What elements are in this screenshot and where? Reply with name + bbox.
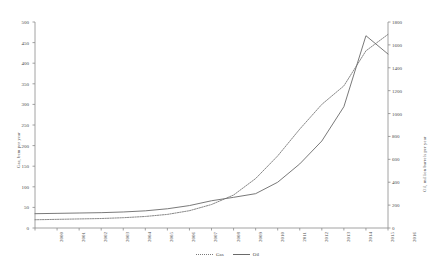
right-axis-tick-label: 1200 <box>392 88 418 93</box>
right-axis-tick-label: 200 <box>392 203 418 208</box>
chart-container: Gas, bcm per year Oil, million barrels p… <box>0 0 430 271</box>
x-axis-tick-label: 2011 <box>302 232 307 254</box>
x-axis-tick-label: 2013 <box>346 232 351 254</box>
x-axis-tick-label: 2006 <box>191 232 196 254</box>
series-line-gas <box>35 34 388 219</box>
right-axis-tick-label: 1600 <box>392 42 418 47</box>
x-axis-tick-label: 2007 <box>213 232 218 254</box>
right-axis-tick-label: 1000 <box>392 111 418 116</box>
left-axis-title: Gas, bcm per year <box>16 132 21 168</box>
left-axis-tick-label: 50 <box>5 205 29 210</box>
left-axis-tick-label: 100 <box>5 184 29 189</box>
left-axis-tick-label: 250 <box>5 123 29 128</box>
x-axis-tick-label: 2002 <box>103 232 108 254</box>
left-axis-tick-label: 450 <box>5 40 29 45</box>
legend-swatch-oil <box>233 254 250 255</box>
right-axis-title: Oil, million barrels per year <box>422 136 427 192</box>
left-axis-tick-label: 300 <box>5 102 29 107</box>
x-axis-tick-label: 2014 <box>368 232 373 254</box>
x-axis-tick-label: 2000 <box>59 232 64 254</box>
legend-item-oil[interactable]: Oil <box>233 252 259 257</box>
x-axis-tick-label: 2016 <box>412 232 417 254</box>
left-axis-tick-label: 500 <box>5 20 29 25</box>
x-axis-tick-label: 2001 <box>81 232 86 254</box>
x-axis-tick-label: 2003 <box>125 232 130 254</box>
legend-label-gas: Gas <box>216 252 224 257</box>
right-axis-tick-label: 0 <box>392 226 418 231</box>
x-axis-tick-label: 2008 <box>236 232 241 254</box>
left-axis-tick-label: 150 <box>5 164 29 169</box>
series-line-oil <box>35 36 388 214</box>
legend-swatch-gas <box>196 254 213 255</box>
x-axis-tick-label: 2012 <box>324 232 329 254</box>
legend-label-oil: Oil <box>253 252 259 257</box>
x-axis-tick-label: 2015 <box>390 232 395 254</box>
left-axis-tick-label: 200 <box>5 143 29 148</box>
left-axis-tick-label: 0 <box>5 226 29 231</box>
left-axis-tick-label: 350 <box>5 81 29 86</box>
right-axis-tick-label: 400 <box>392 180 418 185</box>
x-axis-tick-label: 2005 <box>169 232 174 254</box>
x-axis-tick-label: 2004 <box>147 232 152 254</box>
x-axis-tick-label: 2009 <box>258 232 263 254</box>
legend-item-gas[interactable]: Gas <box>196 252 224 257</box>
x-axis-tick-label: 2010 <box>280 232 285 254</box>
right-axis-tick-label: 1800 <box>392 20 418 25</box>
plot-area <box>0 0 430 271</box>
chart-legend: GasOil <box>196 252 259 257</box>
right-axis-tick-label: 800 <box>392 134 418 139</box>
right-axis-tick-label: 1400 <box>392 65 418 70</box>
right-axis-tick-label: 600 <box>392 157 418 162</box>
left-axis-tick-label: 400 <box>5 61 29 66</box>
